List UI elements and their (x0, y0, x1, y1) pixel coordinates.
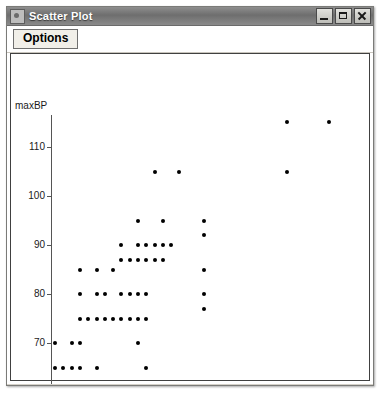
data-point (202, 219, 206, 223)
y-tick-label-wrap: 80 (7, 289, 45, 299)
scatter-plot-window: Scatter Plot Options maxBP BP(60) 607080… (6, 6, 374, 386)
data-point (136, 219, 140, 223)
data-point (327, 120, 331, 124)
maximize-icon (339, 12, 347, 19)
plot-panel: maxBP BP(60) 607080901001105101520253035 (7, 53, 373, 384)
app-icon (10, 9, 25, 24)
data-point (95, 366, 99, 370)
y-tick-mark (47, 147, 52, 148)
y-tick-label-wrap: 100 (7, 191, 45, 201)
data-point (111, 268, 115, 272)
data-point (95, 317, 99, 321)
plot-border (10, 53, 370, 381)
y-tick-label-wrap: 90 (7, 240, 45, 250)
y-tick-mark (47, 245, 52, 246)
y-tick-label: 100 (11, 191, 45, 201)
data-point (70, 366, 74, 370)
data-point (153, 258, 157, 262)
data-point (78, 317, 82, 321)
data-point (136, 317, 140, 321)
data-point (95, 268, 99, 272)
data-point (285, 170, 289, 174)
options-menu-button[interactable]: Options (13, 29, 78, 49)
data-point (153, 243, 157, 247)
title-bar: Scatter Plot (7, 7, 373, 26)
y-tick-mark (47, 343, 52, 344)
y-tick-mark (47, 196, 52, 197)
data-point (128, 258, 132, 262)
data-point (95, 292, 99, 296)
data-point (153, 170, 157, 174)
data-point (136, 258, 140, 262)
y-tick-label: 80 (11, 289, 45, 299)
y-axis-title: maxBP (15, 100, 47, 111)
y-tick-label-wrap: 110 (7, 142, 45, 152)
minimize-button[interactable] (316, 8, 333, 24)
data-point (78, 268, 82, 272)
y-tick-mark (47, 294, 52, 295)
minimize-icon (320, 18, 328, 20)
y-tick-label: 90 (11, 240, 45, 250)
toolbar: Options (7, 26, 373, 53)
y-tick-label-wrap: 70 (7, 338, 45, 348)
window-title: Scatter Plot (29, 10, 314, 22)
data-point (128, 317, 132, 321)
data-point (161, 219, 165, 223)
data-point (161, 258, 165, 262)
y-tick-label: 110 (11, 142, 45, 152)
close-button[interactable] (354, 8, 371, 24)
data-point (103, 317, 107, 321)
maximize-button[interactable] (335, 8, 352, 24)
y-tick-label: 70 (11, 338, 45, 348)
